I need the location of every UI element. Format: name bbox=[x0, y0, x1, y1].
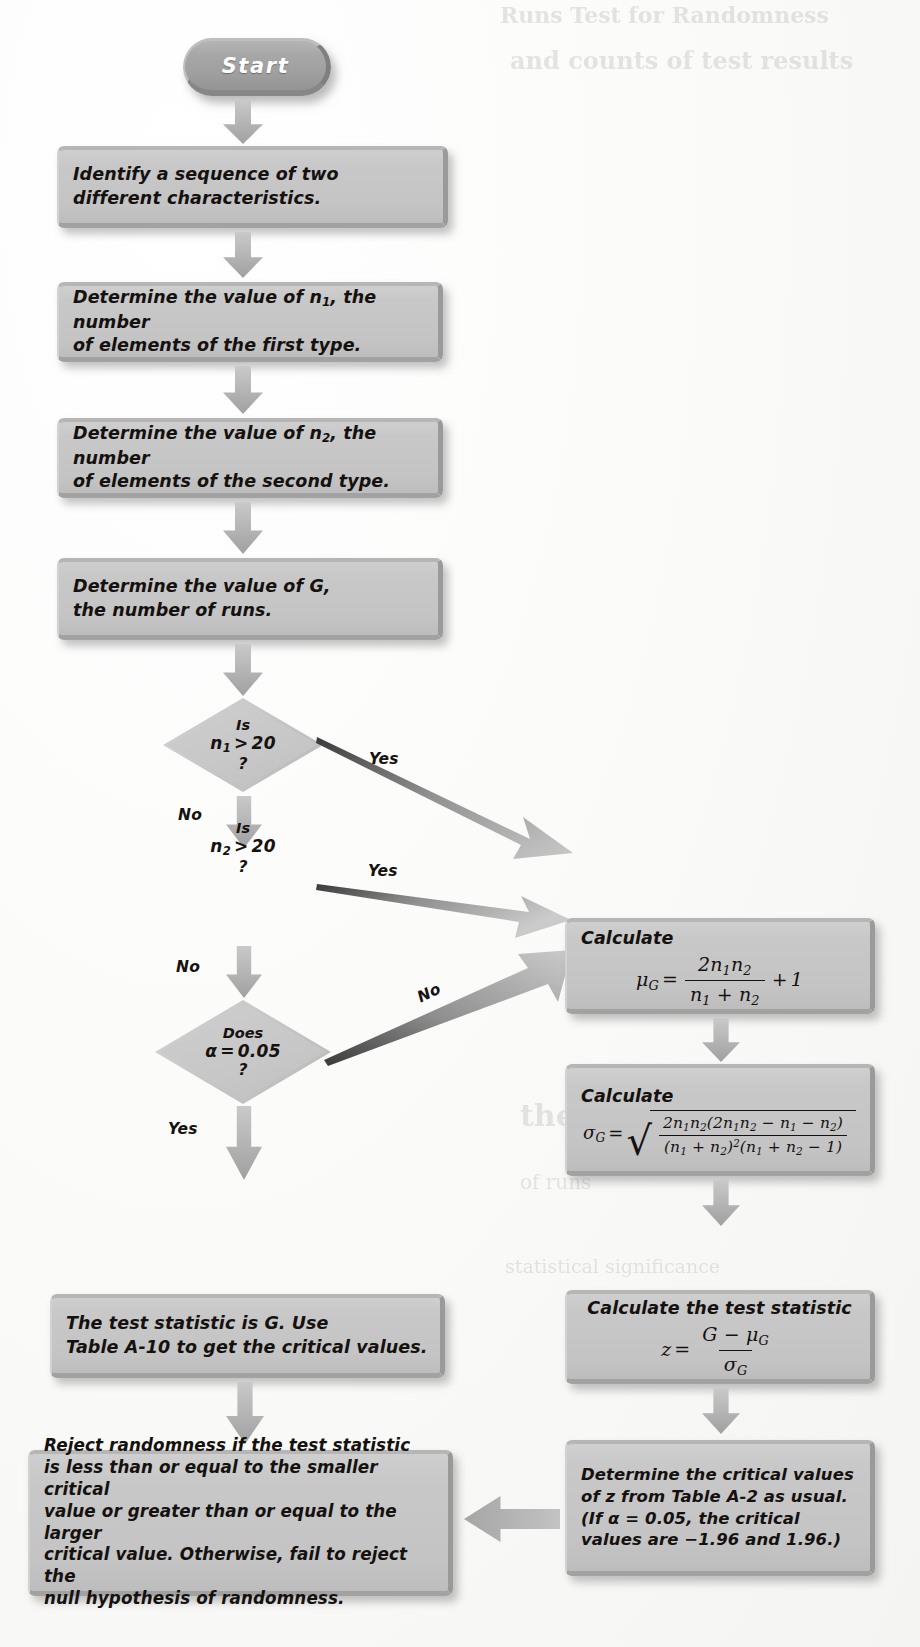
arrow-critical-values-to-conclusion bbox=[464, 1496, 560, 1542]
edge-label-n1-no: No bbox=[178, 806, 202, 824]
calc-z-heading: Calculate the test statistic bbox=[581, 1297, 858, 1320]
G-line-1: Determine the value of G, bbox=[73, 575, 426, 598]
process-calculate-mu[interactable]: Calculate μG = 2n1n2 n1 + n2 +1 bbox=[565, 918, 875, 1014]
arrow-n2-yes-to-calc-mu bbox=[315, 880, 585, 944]
formula-z: z = G − μG σG bbox=[581, 1322, 858, 1379]
decision-alpha-equals-005[interactable]: Does α=0.05 ? bbox=[155, 1000, 331, 1104]
smallsample-line-1: The test statistic is G. Use bbox=[66, 1312, 428, 1335]
process-conclusion[interactable]: Reject randomness if the test statistic … bbox=[28, 1450, 453, 1596]
critz-line-2: of z from Table A-2 as usual. bbox=[581, 1486, 858, 1508]
start-label: Start bbox=[222, 54, 290, 78]
process-determine-n1[interactable]: Determine the value of n1, the number of… bbox=[57, 282, 443, 362]
critz-line-3: (If α = 0.05, the critical bbox=[581, 1508, 858, 1530]
calc-mu-heading: Calculate bbox=[581, 927, 858, 950]
decision-n1-line-3: ? bbox=[238, 755, 247, 773]
decision-alpha-line-3: ? bbox=[238, 1061, 247, 1079]
critz-line-1: Determine the critical values bbox=[581, 1464, 858, 1486]
bleed-text-2: and counts of test results bbox=[510, 46, 853, 75]
calc-sigma-heading: Calculate bbox=[581, 1085, 858, 1108]
process-identify-sequence[interactable]: Identify a sequence of two different cha… bbox=[57, 146, 448, 228]
flowchart-figure: Runs Test for Randomness and counts of t… bbox=[0, 0, 920, 1647]
alpha-symbol: α bbox=[608, 1509, 619, 1528]
n1-line-2: of elements of the first type. bbox=[73, 334, 426, 357]
process-small-sample-result[interactable]: The test statistic is G. Use Table A-10 … bbox=[50, 1294, 445, 1378]
arrow-n1-yes-to-calc-mu bbox=[315, 735, 585, 865]
process-critical-values-z[interactable]: Determine the critical values of z from … bbox=[565, 1440, 875, 1576]
conclusion-line-2: is less than or equal to the smaller cri… bbox=[44, 1457, 436, 1501]
arrow-start-to-identify bbox=[223, 100, 263, 144]
arrow-n1-to-n2 bbox=[223, 366, 263, 414]
decision-n1-gt-20[interactable]: Is n1>20 ? bbox=[163, 698, 323, 792]
n1-line-1: Determine the value of n1, the number bbox=[73, 286, 426, 334]
formula-sigma-G: σG = √ 2n1n2(2n1n2 − n1 − n2) (n1 + n2)2… bbox=[581, 1110, 858, 1158]
n2-line-1: Determine the value of n2, the number bbox=[73, 422, 426, 470]
bleed-text-1: Runs Test for Randomness bbox=[500, 2, 829, 28]
process-determine-n2[interactable]: Determine the value of n2, the number of… bbox=[57, 418, 443, 498]
smallsample-line-2: Table A-10 to get the critical values. bbox=[66, 1336, 428, 1359]
arrow-G-to-decision-n1 bbox=[223, 644, 263, 696]
edge-label-n2-no: No bbox=[176, 958, 200, 976]
formula-mu-G: μG = 2n1n2 n1 + n2 +1 bbox=[581, 952, 858, 1009]
process-calculate-sigma[interactable]: Calculate σG = √ 2n1n2(2n1n2 − n1 − n2) … bbox=[565, 1064, 875, 1176]
conclusion-line-1: Reject randomness if the test statistic bbox=[44, 1435, 436, 1457]
decision-n2-line-2: n2>20 bbox=[210, 837, 276, 858]
arrow-calc-sigma-to-calc-z bbox=[702, 1180, 740, 1226]
decision-alpha-line-1: Does bbox=[223, 1025, 263, 1041]
conclusion-line-5: null hypothesis of randomness. bbox=[44, 1588, 436, 1610]
decision-n2-line-3: ? bbox=[238, 858, 247, 876]
G-variable: G bbox=[309, 576, 323, 596]
process-calculate-z[interactable]: Calculate the test statistic z = G − μG … bbox=[565, 1290, 875, 1384]
decision-alpha-line-2: α=0.05 bbox=[205, 1042, 281, 1061]
edge-label-alpha-yes: Yes bbox=[168, 1120, 198, 1138]
n2-variable: n bbox=[309, 423, 322, 443]
decision-n1-line-1: Is bbox=[236, 717, 250, 733]
edge-label-n1-yes: Yes bbox=[369, 750, 399, 768]
decision-n2-line-1: Is bbox=[236, 820, 250, 836]
conclusion-line-3: value or greater than or equal to the la… bbox=[44, 1501, 436, 1545]
arrow-alpha-yes-to-small-sample bbox=[226, 1106, 262, 1180]
arrow-alpha-no-to-calc-mu bbox=[322, 948, 582, 1068]
arrow-calc-z-to-critical-values bbox=[702, 1388, 740, 1434]
n2-line-2: of elements of the second type. bbox=[73, 470, 426, 493]
G-line-2: the number of runs. bbox=[73, 599, 426, 622]
start-terminator[interactable]: Start bbox=[183, 38, 331, 96]
identify-line-1: Identify a sequence of two bbox=[73, 163, 431, 186]
conclusion-line-4: critical value. Otherwise, fail to rejec… bbox=[44, 1544, 436, 1588]
arrow-n2-to-G bbox=[223, 502, 263, 554]
bleed-text-3: statistical significance bbox=[505, 1255, 720, 1277]
n1-variable: n bbox=[309, 287, 322, 307]
edge-label-n2-yes: Yes bbox=[368, 862, 398, 880]
process-determine-G[interactable]: Determine the value of G, the number of … bbox=[57, 558, 443, 640]
critz-line-4: values are −1.96 and 1.96.) bbox=[581, 1529, 858, 1551]
decision-n1-line-2: n1>20 bbox=[210, 734, 276, 755]
arrow-n2-no-to-decision-alpha bbox=[226, 946, 262, 998]
arrow-calc-mu-to-calc-sigma bbox=[702, 1018, 740, 1062]
identify-line-2: different characteristics. bbox=[73, 187, 431, 210]
G-variable: G bbox=[264, 1313, 278, 1333]
arrow-identify-to-n1 bbox=[223, 232, 263, 278]
